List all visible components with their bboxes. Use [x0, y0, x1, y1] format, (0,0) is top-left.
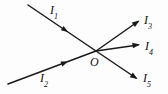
label-I1: I1	[50, 4, 58, 19]
label-I5-sub: 5	[147, 80, 151, 89]
label-I1-sub: 1	[54, 12, 58, 21]
label-I4: I4	[145, 40, 153, 55]
ray-I2-line	[8, 51, 96, 84]
label-I2-sub: 2	[44, 80, 48, 89]
label-I3: I3	[144, 14, 152, 29]
label-I2: I2	[40, 72, 48, 87]
label-I4-sub: 4	[149, 48, 153, 57]
ray-I5-line	[96, 51, 136, 78]
physics-figure-current-node: I1 I2 I3 I4 I5 O	[0, 0, 168, 94]
ray-I1-line	[28, 5, 96, 51]
label-I3-sub: 3	[148, 22, 152, 31]
ray-I4-arrowhead	[132, 42, 140, 49]
ray-I2-arrowhead	[61, 59, 69, 66]
label-node-O: O	[90, 56, 99, 68]
label-I5: I5	[143, 72, 151, 87]
